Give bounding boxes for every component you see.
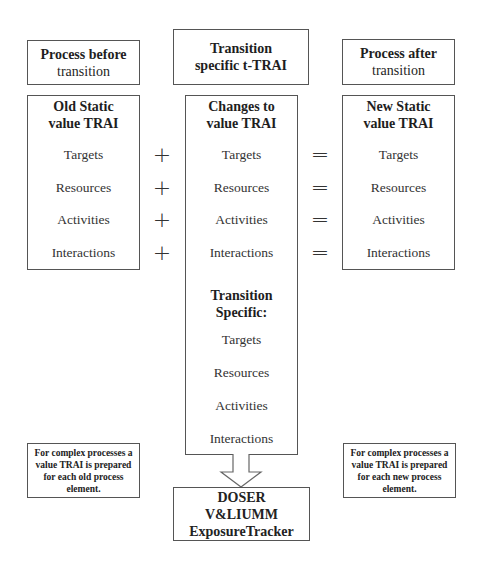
specific-item-resources: Resources — [186, 365, 297, 381]
plus-operator-2: + — [152, 178, 172, 198]
output-tools-box: DOSER V&LIUMM ExposureTracker — [173, 487, 310, 541]
new-static-title-line1: New Static — [343, 98, 454, 115]
specific-item-targets: Targets — [186, 332, 297, 348]
changes-item-resources: Resources — [186, 180, 297, 196]
note-old-process: For complex processes a value TRAI is pr… — [27, 443, 140, 498]
header-process-after-line2: transition — [372, 62, 425, 79]
plus-operator-1: + — [152, 145, 172, 165]
note-new-process: For complex processes a value TRAI is pr… — [343, 443, 456, 498]
new-item-activities: Activities — [343, 212, 454, 228]
old-item-activities: Activities — [28, 212, 139, 228]
output-vliumm: V&LIUMM — [205, 506, 278, 523]
old-static-title-line2: value TRAI — [28, 115, 139, 132]
new-static-value-trai-box: New Static value TRAI Targets Resources … — [342, 95, 455, 270]
specific-item-activities: Activities — [186, 398, 297, 414]
changes-title-line2: value TRAI — [186, 115, 297, 132]
old-item-targets: Targets — [28, 147, 139, 163]
header-process-before-line1: Process before — [40, 46, 126, 63]
changes-item-interactions: Interactions — [186, 245, 297, 261]
changes-item-targets: Targets — [186, 147, 297, 163]
note-new-process-text: For complex processes a value TRAI is pr… — [348, 447, 451, 495]
transition-specific-subtitle-line2: Specific: — [186, 304, 297, 321]
new-static-title-line2: value TRAI — [343, 115, 454, 132]
down-arrow-icon — [215, 454, 267, 488]
old-item-resources: Resources — [28, 180, 139, 196]
new-item-targets: Targets — [343, 147, 454, 163]
old-item-interactions: Interactions — [28, 245, 139, 261]
new-item-interactions: Interactions — [343, 245, 454, 261]
header-transition-specific: Transition specific t-TRAI — [173, 29, 309, 85]
changes-title-line1: Changes to — [186, 98, 297, 115]
equals-operator-3: = — [310, 210, 330, 230]
header-transition-line2: specific t-TRAI — [195, 57, 287, 74]
specific-item-interactions: Interactions — [186, 431, 297, 447]
header-process-after: Process after transition — [342, 39, 455, 85]
equals-operator-4: = — [310, 243, 330, 263]
header-process-before-line2: transition — [57, 63, 110, 80]
old-static-title-line1: Old Static — [28, 98, 139, 115]
plus-operator-4: + — [152, 243, 172, 263]
equals-operator-2: = — [310, 178, 330, 198]
equals-operator-1: = — [310, 145, 330, 165]
output-exposuretracker: ExposureTracker — [189, 523, 293, 540]
changes-value-trai-box: Changes to value TRAI Targets Resources … — [185, 95, 298, 455]
output-doser: DOSER — [217, 489, 265, 506]
old-static-value-trai-box: Old Static value TRAI Targets Resources … — [27, 95, 140, 270]
transition-specific-subtitle-line1: Transition — [186, 287, 297, 304]
note-old-process-text: For complex processes a value TRAI is pr… — [32, 447, 135, 495]
plus-operator-3: + — [152, 210, 172, 230]
header-process-after-line1: Process after — [360, 45, 437, 62]
header-transition-line1: Transition — [210, 40, 272, 57]
header-process-before: Process before transition — [27, 40, 140, 85]
changes-item-activities: Activities — [186, 212, 297, 228]
new-item-resources: Resources — [343, 180, 454, 196]
